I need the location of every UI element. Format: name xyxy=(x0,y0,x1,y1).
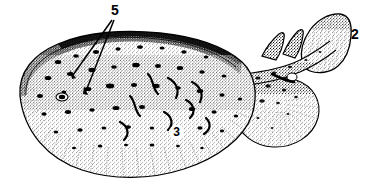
pectoral-disc xyxy=(12,26,264,184)
ray-illustration xyxy=(0,0,367,192)
callout-label-2: 2 xyxy=(351,27,359,41)
callout-label-3: 3 xyxy=(169,125,184,140)
figure-container: 5 2 3 xyxy=(0,0,367,192)
first-dorsal-fin xyxy=(258,28,290,66)
callout-label-5: 5 xyxy=(111,3,119,17)
eye xyxy=(56,93,68,101)
